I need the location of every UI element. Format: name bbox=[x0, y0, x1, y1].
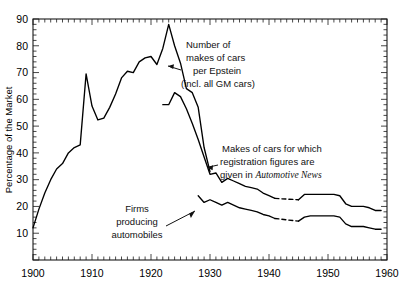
x-tick-label: 1950 bbox=[316, 267, 340, 279]
y-tick-label: 50 bbox=[16, 120, 28, 132]
annotation-epstein-line3: per Epstein bbox=[193, 65, 241, 76]
y-axis-title: Percentage of the Market bbox=[3, 86, 14, 193]
annotation-firms-line3: automobiles bbox=[111, 229, 162, 240]
y-axis-tick-labels: 102030405060708090 bbox=[16, 13, 28, 239]
y-tick-label: 70 bbox=[16, 66, 28, 78]
annotation-epstein-line4: (incl. all GM cars) bbox=[181, 78, 255, 89]
y-tick-label: 40 bbox=[16, 147, 28, 159]
x-tick-label: 1920 bbox=[139, 267, 163, 279]
annotation-autonews-publication: Automotive News bbox=[254, 170, 322, 180]
x-tick-label: 1900 bbox=[21, 267, 45, 279]
chart-figure: 102030405060708090 190019101920193019401… bbox=[0, 0, 402, 304]
annotation-automotive-news: Makes of cars for which registration fig… bbox=[207, 143, 322, 180]
x-tick-label: 1960 bbox=[375, 267, 399, 279]
x-tick-label: 1930 bbox=[198, 267, 222, 279]
annotation-epstein-line2: makes of cars bbox=[186, 52, 245, 63]
annotation-autonews-line3: given in Automotive News bbox=[220, 169, 322, 180]
y-tick-label: 20 bbox=[16, 200, 28, 212]
annotation-autonews-line2: registration figures are bbox=[220, 156, 315, 167]
annotation-firms-line1: Firms bbox=[125, 203, 149, 214]
y-tick-label: 60 bbox=[16, 93, 28, 105]
x-tick-label: 1910 bbox=[80, 267, 104, 279]
market-share-line-chart: 102030405060708090 190019101920193019401… bbox=[0, 0, 402, 304]
y-tick-label: 30 bbox=[16, 173, 28, 185]
x-tick-label: 1940 bbox=[257, 267, 281, 279]
y-tick-label: 90 bbox=[16, 13, 28, 25]
annotation-autonews-line1: Makes of cars for which bbox=[222, 143, 322, 154]
annotation-epstein-line1: Number of bbox=[186, 39, 231, 50]
y-tick-label: 80 bbox=[16, 40, 28, 52]
annotation-autonews-line3-prefix: given in bbox=[220, 169, 255, 180]
annotation-firms-line2: producing bbox=[116, 216, 158, 227]
y-tick-label: 10 bbox=[16, 227, 28, 239]
